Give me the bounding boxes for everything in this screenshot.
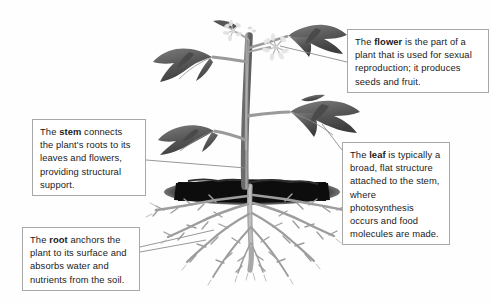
callout-root-text: The root anchors the plant to its surfac…	[30, 234, 127, 285]
callout-root: The root anchors the plant to its surfac…	[22, 227, 140, 291]
callout-flower-text: The flower is the part of a plant that i…	[355, 36, 472, 87]
leader-line-stem	[146, 160, 246, 168]
callout-leaf-text: The leaf is typically a broad, flat stru…	[350, 149, 440, 239]
callout-leaf: The leaf is typically a broad, flat stru…	[342, 142, 450, 245]
callout-leaf-term: leaf	[369, 149, 386, 160]
callout-flower-term: flower	[374, 36, 402, 47]
plant-leaf	[153, 20, 360, 155]
plant-anatomy-diagram: The flower is the part of a plant that i…	[0, 0, 491, 305]
callout-stem-term: stem	[59, 126, 81, 137]
callout-stem: The stem connects the plant's roots to i…	[32, 119, 146, 196]
callout-root-term: root	[49, 234, 68, 245]
callout-flower: The flower is the part of a plant that i…	[347, 29, 489, 93]
leader-line-root-b	[140, 240, 206, 252]
callout-stem-text: The stem connects the plant's roots to i…	[40, 126, 131, 190]
